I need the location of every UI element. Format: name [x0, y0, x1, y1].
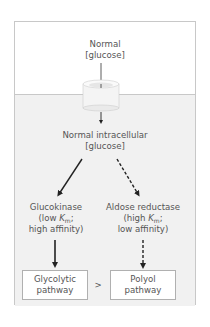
km-line: (low Km;	[20, 213, 92, 224]
enzyme-name: Glucokinase	[20, 202, 92, 213]
pathway-line: pathway	[23, 285, 87, 296]
affinity-line: high affinity)	[20, 224, 92, 235]
pathway-line: Glycolytic	[23, 274, 87, 285]
glucokinase-label: Glucokinase (low Km; high affinity)	[20, 202, 92, 235]
label-line: Normal intracellular	[0, 130, 210, 141]
aldose-reductase-label: Aldose reductase (high Km; low affinity)	[103, 202, 183, 235]
glycolytic-pathway-box: Glycolytic pathway	[22, 270, 88, 300]
pathway-line: Polyol	[111, 274, 175, 285]
km-line: (high Km;	[103, 213, 183, 224]
pathway-line: pathway	[111, 285, 175, 296]
label-line: [glucose]	[0, 141, 210, 152]
enzyme-name: Aldose reductase	[103, 202, 183, 213]
comparison-symbol: >	[92, 280, 104, 291]
polyol-pathway-box: Polyol pathway	[110, 270, 176, 300]
affinity-line: low affinity)	[103, 224, 183, 235]
intracellular-glucose-label: Normal intracellular [glucose]	[0, 130, 210, 152]
